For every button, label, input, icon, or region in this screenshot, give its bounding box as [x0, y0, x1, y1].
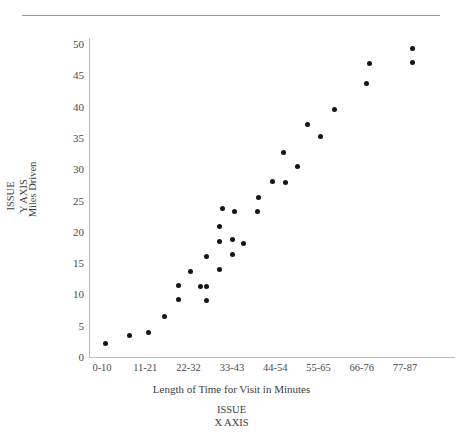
y-axis-tick-25: 25 — [50, 195, 84, 206]
data-point — [204, 298, 209, 303]
y-axis-tick-10: 10 — [50, 289, 84, 300]
x-axis-tick-55-65: 55-65 — [306, 362, 331, 374]
data-point — [230, 252, 235, 257]
data-point — [162, 314, 167, 319]
data-point — [103, 341, 108, 346]
data-point — [176, 283, 181, 288]
x-axis-tick-44-54: 44-54 — [263, 362, 288, 374]
x-axis-tick-77-87: 77-87 — [393, 362, 418, 374]
scatter-plot-figure: 05101520253035404550 0-1011-2122-3233-43… — [0, 0, 463, 439]
data-point — [410, 60, 415, 65]
data-point — [241, 241, 246, 246]
y-axis-tick-15: 15 — [50, 258, 84, 269]
data-point — [127, 333, 132, 338]
data-point — [255, 209, 260, 214]
y-axis-tick-50: 50 — [50, 39, 84, 50]
y-axis-tick-labels: 05101520253035404550 — [48, 0, 84, 439]
data-point — [217, 267, 222, 272]
y-axis-tick-5: 5 — [50, 320, 84, 331]
data-point — [188, 269, 193, 274]
x-axis-tick-66-76: 66-76 — [350, 362, 375, 374]
x-axis-tick-22-32: 22-32 — [176, 362, 201, 374]
x-axis-tick-33-43: 33-43 — [220, 362, 245, 374]
y-axis-tick-45: 45 — [50, 70, 84, 81]
data-point — [295, 164, 300, 169]
data-point — [305, 122, 310, 127]
plot-area — [89, 38, 455, 357]
y-axis-tick-30: 30 — [50, 164, 84, 175]
data-point — [146, 330, 151, 335]
y-axis-issue-annotation: ISSUE Y AXIS — [4, 151, 30, 241]
data-point — [204, 254, 209, 259]
data-point — [283, 180, 288, 185]
data-point — [281, 150, 286, 155]
data-point — [198, 284, 203, 289]
data-point — [232, 209, 237, 214]
data-point — [270, 179, 275, 184]
data-point — [364, 81, 369, 86]
x-axis-title: Length of Time for Visit in Minutes — [0, 383, 463, 395]
data-point — [367, 61, 372, 66]
x-axis-issue-annotation: ISSUE X AXIS — [0, 403, 463, 429]
x-axis-tick-11-21: 11-21 — [133, 362, 157, 374]
x-axis-tick-0-10: 0-10 — [92, 362, 111, 374]
data-point — [256, 195, 261, 200]
header-divider — [22, 15, 440, 16]
x-axis-line — [89, 357, 455, 358]
data-point — [318, 134, 323, 139]
y-axis-tick-20: 20 — [50, 226, 84, 237]
y-axis-tick-40: 40 — [50, 101, 84, 112]
y-axis-tick-35: 35 — [50, 132, 84, 143]
data-point — [220, 206, 225, 211]
y-axis-tick-0: 0 — [50, 352, 84, 363]
data-point — [217, 239, 222, 244]
data-point — [204, 284, 209, 289]
data-point — [176, 297, 181, 302]
data-point — [217, 224, 222, 229]
data-point — [332, 107, 337, 112]
data-point — [230, 237, 235, 242]
data-point — [410, 46, 415, 51]
